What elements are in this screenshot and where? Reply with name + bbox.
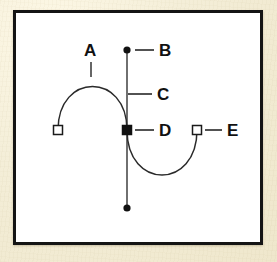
label-a: A: [84, 42, 96, 59]
label-d: D: [159, 122, 171, 139]
label-b: B: [159, 42, 171, 59]
direction-point-bottom-dot[interactable]: [123, 204, 130, 211]
anchor-point-right-square[interactable]: [193, 126, 202, 135]
label-c: C: [157, 86, 169, 103]
anchor-point-center-square[interactable]: [123, 126, 132, 135]
diagram-page: A B C D E: [0, 0, 277, 262]
direction-point-top-dot[interactable]: [123, 46, 130, 53]
curve-segment-left: [58, 87, 127, 131]
label-e: E: [227, 122, 238, 139]
anchor-point-left-square[interactable]: [54, 126, 63, 135]
